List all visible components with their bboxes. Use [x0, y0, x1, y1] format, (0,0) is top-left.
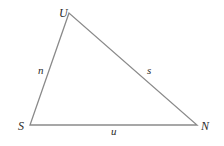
- side-label-s: s: [147, 64, 151, 76]
- vertex-label-s: S: [18, 119, 24, 133]
- vertex-label-u: U: [59, 6, 69, 20]
- side-label-u: u: [111, 125, 117, 137]
- triangle-diagram: U S N n s u: [0, 0, 224, 146]
- triangle-shape: [30, 13, 197, 125]
- vertex-label-n: N: [200, 119, 210, 133]
- side-label-n: n: [38, 64, 44, 76]
